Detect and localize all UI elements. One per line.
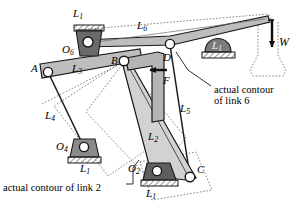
label-c: C	[197, 164, 204, 175]
joint-d	[165, 39, 174, 48]
joint-b	[119, 56, 129, 66]
label-o4: O4	[56, 141, 68, 154]
label-l1-right: L1	[212, 40, 222, 53]
linkage-diagram: L1 L6 O6 L1 W A L3 B D F L5 L4 L2 O4 L1 …	[0, 0, 301, 208]
joint-o6	[83, 37, 93, 47]
joint-o2	[152, 166, 161, 175]
label-l1-o4: L1	[80, 163, 90, 176]
label-d: D	[163, 52, 171, 63]
label-b: B	[111, 55, 118, 66]
joint-c	[185, 172, 195, 182]
label-o6: O6	[62, 44, 74, 57]
label-l5: L5	[180, 103, 190, 116]
joint-a	[43, 67, 52, 76]
label-w: W	[279, 36, 289, 48]
label-l4: L4	[45, 110, 55, 123]
joint-o4	[79, 142, 88, 151]
label-l2: L2	[148, 131, 158, 144]
label-a: A	[31, 63, 38, 74]
label-l3: L3	[72, 63, 82, 76]
label-o2: O2	[128, 163, 140, 176]
caption-actual-contour-link6: actual contour of link 6	[214, 84, 274, 107]
caption-link2-line1: actual contour of link 2	[3, 182, 101, 193]
caption-link6-line2: of link 6	[214, 95, 274, 106]
label-l1-top: L1	[73, 8, 83, 21]
label-l1-o2: L1	[146, 188, 156, 201]
caption-link6-line1: actual contour	[214, 84, 274, 95]
label-l6: L6	[137, 20, 147, 33]
label-f: F	[163, 75, 170, 86]
caption-actual-contour-link2: actual contour of link 2	[3, 182, 101, 193]
contour-weight-block	[250, 22, 286, 76]
link-l6	[84, 16, 270, 47]
